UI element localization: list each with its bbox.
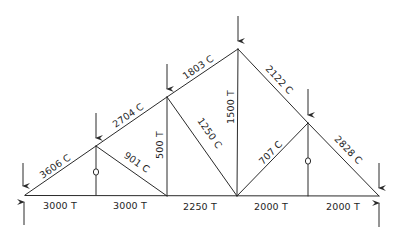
- force-label-bot1: 3000 T: [43, 200, 77, 211]
- bottom-chord-labels: 3000 T 3000 T 2250 T 2000 T 2000 T: [43, 200, 360, 212]
- member-top-U4-R0: [308, 123, 379, 196]
- force-label-bot2: 3000 T: [113, 200, 147, 211]
- force-label-top5: 2828 C: [332, 133, 364, 166]
- member-diag-B3-U4: [237, 123, 308, 196]
- member-bottom: [25, 196, 379, 197]
- force-label-vert3: 1500 T: [225, 90, 236, 124]
- member-top-U2-U3: [167, 49, 238, 97]
- bottom-chord: [25, 196, 379, 197]
- member-top-L0-U1: [25, 146, 96, 195]
- force-label-diag3: 707 C: [257, 138, 285, 166]
- web-labels: 901 C 500 T 1250 C 1500 T 707 C: [122, 90, 284, 175]
- force-label-bot5: 2000 T: [326, 201, 360, 212]
- load-arrows: [23, 16, 379, 188]
- member-vert-U3-B3: [237, 49, 238, 196]
- force-label-diag2: 1250 C: [195, 116, 224, 151]
- truss-diagram: 3606 C 2704 C 1803 C 2122 C 2828 C 3000 …: [0, 0, 405, 242]
- force-label-bot3: 2250 T: [183, 201, 217, 212]
- force-label-bot4: 2000 T: [254, 201, 288, 212]
- zero-force-circle-icon: [93, 169, 98, 175]
- force-label-diag1: 901 C: [122, 149, 152, 175]
- force-label-vert2: 500 T: [154, 131, 165, 159]
- zero-force-circle-icon: [305, 158, 310, 164]
- force-label-top4: 2122 C: [264, 63, 296, 96]
- member-top-U3-U4: [238, 49, 308, 123]
